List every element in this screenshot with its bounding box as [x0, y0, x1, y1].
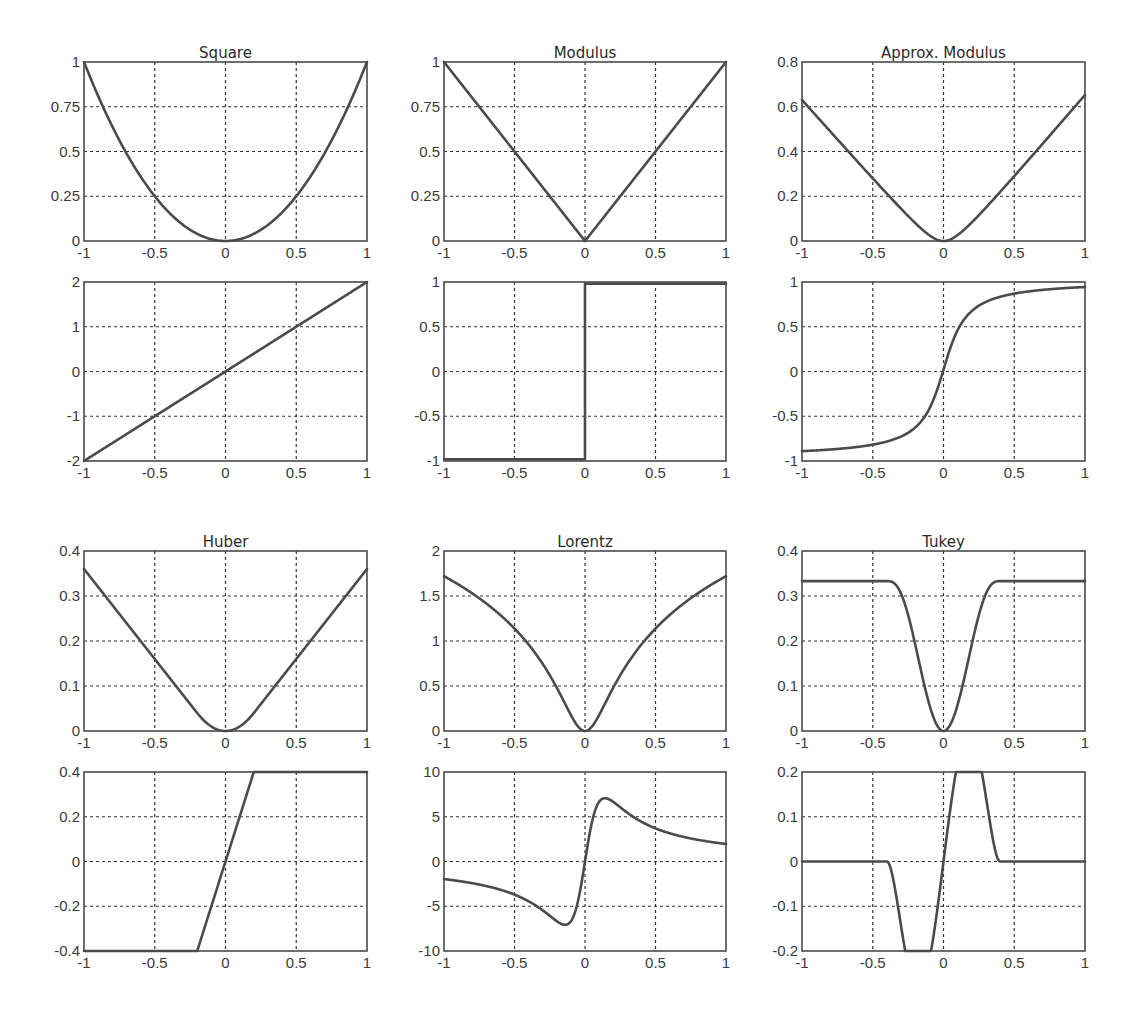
subplot-lorentz: -1-0.500.5100.511.52Lorentz	[419, 533, 730, 751]
subplot-square: -1-0.500.5100.250.50.751Square	[51, 44, 371, 261]
y-tick-label: 0.75	[411, 98, 440, 115]
y-tick-label: 0.6	[777, 98, 798, 115]
y-tick-label: 0.2	[59, 808, 80, 825]
y-tick-label: 0.5	[59, 143, 80, 160]
x-tick-label: 0	[939, 954, 947, 971]
x-tick-label: -0.5	[502, 244, 528, 261]
y-tick-label: 0.5	[419, 677, 440, 694]
x-tick-label: -0.5	[502, 734, 528, 751]
y-tick-label: 0.75	[51, 98, 80, 115]
y-tick-label: 0.2	[777, 763, 798, 780]
subplot-modulus-derivative: -1-0.500.51-1-0.500.51	[414, 273, 730, 481]
y-tick-label: 10	[423, 763, 440, 780]
y-tick-label: 0	[432, 232, 440, 249]
x-tick-label: 1	[1081, 464, 1089, 481]
x-tick-label: 1	[1081, 244, 1089, 261]
subplot-title: Tukey	[921, 533, 965, 551]
y-tick-label: 0.4	[777, 542, 798, 559]
x-tick-label: 1	[363, 244, 371, 261]
y-tick-label: -0.1	[772, 897, 798, 914]
y-tick-label: -1	[67, 407, 80, 424]
x-tick-label: -0.5	[860, 954, 886, 971]
y-tick-label: 0.25	[51, 187, 80, 204]
y-tick-label: 0.8	[777, 53, 798, 70]
x-tick-label: 1	[722, 464, 730, 481]
x-tick-label: -0.5	[142, 734, 168, 751]
x-tick-label: 0.5	[645, 244, 666, 261]
x-tick-label: 1	[722, 954, 730, 971]
y-tick-label: 0.2	[777, 187, 798, 204]
y-tick-label: 0	[72, 232, 80, 249]
x-tick-label: 0	[221, 244, 229, 261]
x-tick-label: 0	[221, 734, 229, 751]
y-tick-label: -1	[785, 452, 798, 469]
y-tick-label: -0.2	[54, 897, 80, 914]
y-tick-label: 0.5	[419, 318, 440, 335]
y-tick-label: 0	[432, 853, 440, 870]
x-tick-label: 1	[1081, 954, 1089, 971]
x-tick-label: 1	[722, 244, 730, 261]
y-tick-label: -2	[67, 452, 80, 469]
y-tick-label: 0.1	[59, 677, 80, 694]
y-tick-label: 0.2	[777, 632, 798, 649]
y-tick-label: 1	[72, 53, 80, 70]
x-tick-label: 1	[363, 734, 371, 751]
x-tick-label: 0.5	[286, 954, 307, 971]
y-tick-label: -5	[427, 897, 440, 914]
x-tick-label: 0	[221, 464, 229, 481]
y-tick-label: -10	[418, 942, 440, 959]
x-tick-label: 0	[581, 954, 589, 971]
y-tick-label: 0.4	[59, 542, 80, 559]
x-tick-label: 0.5	[286, 734, 307, 751]
y-tick-label: 0	[72, 853, 80, 870]
y-tick-label: 0.5	[419, 143, 440, 160]
subplot-approx-modulus: -1-0.500.5100.20.40.60.8Approx. Modulus	[777, 44, 1089, 261]
y-tick-label: 2	[432, 542, 440, 559]
x-tick-label: -0.5	[142, 464, 168, 481]
y-tick-label: -0.5	[414, 407, 440, 424]
y-tick-label: 1	[432, 53, 440, 70]
y-tick-label: 1	[432, 632, 440, 649]
subplot-square-derivative: -1-0.500.51-2-1012	[67, 273, 372, 481]
x-tick-label: -0.5	[860, 244, 886, 261]
y-tick-label: 2	[72, 273, 80, 290]
y-tick-label: 0.3	[59, 587, 80, 604]
subplot-title: Approx. Modulus	[881, 44, 1006, 62]
subplot-tukey-derivative: -1-0.500.51-0.2-0.100.10.2	[772, 763, 1089, 971]
x-tick-label: -0.5	[860, 734, 886, 751]
x-tick-label: 0.5	[1004, 244, 1025, 261]
x-tick-label: 0	[939, 244, 947, 261]
x-tick-label: 1	[363, 464, 371, 481]
x-tick-label: 1	[1081, 734, 1089, 751]
y-tick-label: -1	[427, 452, 440, 469]
subplot-title: Square	[199, 44, 252, 62]
y-tick-label: 0	[72, 722, 80, 739]
y-tick-label: -0.4	[54, 942, 80, 959]
x-tick-label: 0.5	[1004, 954, 1025, 971]
x-tick-label: 0.5	[1004, 734, 1025, 751]
subplot-huber-derivative: -1-0.500.51-0.4-0.200.20.4	[54, 763, 371, 971]
y-tick-label: 1.5	[419, 587, 440, 604]
x-tick-label: 0	[581, 244, 589, 261]
x-tick-label: -0.5	[502, 954, 528, 971]
y-tick-label: 0	[790, 363, 798, 380]
x-tick-label: 0	[939, 734, 947, 751]
y-tick-label: 0	[790, 722, 798, 739]
y-tick-label: -0.5	[772, 407, 798, 424]
y-tick-label: 0	[432, 722, 440, 739]
x-tick-label: 0.5	[645, 734, 666, 751]
y-tick-label: 0.25	[411, 187, 440, 204]
x-tick-label: 0	[581, 464, 589, 481]
y-tick-label: 1	[790, 273, 798, 290]
x-tick-label: 1	[722, 734, 730, 751]
y-tick-label: 1	[432, 273, 440, 290]
y-tick-label: 0.2	[59, 632, 80, 649]
x-tick-label: 1	[363, 954, 371, 971]
estimator-figure: -1-0.500.5100.250.50.751Square-1-0.500.5…	[0, 0, 1122, 1018]
x-tick-label: 0.5	[645, 464, 666, 481]
subplot-approx-modulus-derivative: -1-0.500.51-1-0.500.51	[772, 273, 1089, 481]
x-tick-label: 0.5	[1004, 464, 1025, 481]
subplot-modulus: -1-0.500.5100.250.50.751Modulus	[411, 44, 730, 261]
y-tick-label: 0.4	[777, 143, 798, 160]
subplot-huber: -1-0.500.5100.10.20.30.4Huber	[59, 533, 371, 751]
